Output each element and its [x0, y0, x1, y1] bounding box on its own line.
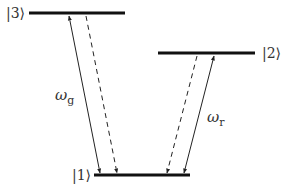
- omega-r-subscript: r: [219, 116, 225, 129]
- omega-g-label: ωg: [55, 86, 74, 107]
- omega-g-symbol: ω: [55, 86, 67, 104]
- level-1-label: |1⟩: [72, 167, 91, 184]
- omega-r-symbol: ω: [207, 108, 219, 126]
- decay-arrow-3-1: [86, 16, 117, 173]
- decay-arrow-2-1: [167, 56, 197, 173]
- level-2-label: |2⟩: [262, 45, 281, 62]
- level-3-label: |3⟩: [6, 5, 25, 22]
- omega-r-label: ωr: [207, 108, 225, 129]
- omega-g-subscript: g: [67, 94, 74, 107]
- energy-level-diagram: |3⟩ |2⟩ |1⟩ ωg ωr: [0, 0, 284, 189]
